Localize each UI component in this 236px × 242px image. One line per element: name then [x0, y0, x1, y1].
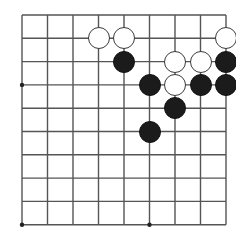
star-point [147, 223, 151, 227]
star-point [20, 83, 24, 87]
white-stone-d2[interactable] [88, 27, 110, 49]
white-stone-h3[interactable] [190, 51, 212, 73]
star-point [20, 223, 24, 227]
black-stone-i4[interactable] [215, 74, 236, 96]
black-stone-f6[interactable] [139, 121, 161, 143]
black-stone-h4[interactable] [190, 74, 212, 96]
black-stone-i3[interactable] [215, 51, 236, 73]
white-stone-g3[interactable] [164, 51, 186, 73]
white-stone-i2[interactable] [215, 27, 236, 49]
black-stone-f4[interactable] [139, 74, 161, 96]
go-board-diagram [0, 0, 236, 242]
black-stone-e3[interactable] [113, 51, 135, 73]
white-stone-g4[interactable] [164, 74, 186, 96]
